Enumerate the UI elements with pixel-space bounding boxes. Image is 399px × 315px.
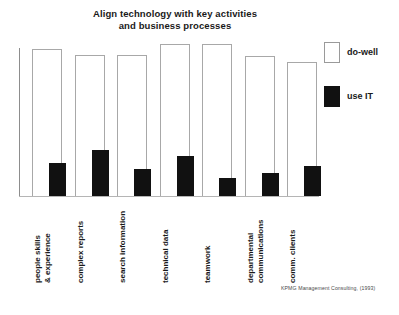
bar-use-it (219, 178, 236, 196)
category-label-line-1: people skills (33, 235, 42, 283)
category-label-line-1: comm. clients (288, 230, 297, 283)
bar-use-it (134, 169, 151, 196)
chart-title-line-2: and business processes (40, 20, 310, 32)
bar-use-it (177, 156, 194, 196)
category-label: people skills& experience (33, 199, 55, 283)
category-label: technical data (161, 199, 183, 283)
category-label: comm. clients (288, 199, 310, 283)
category-label-line-1: teamwork (203, 246, 212, 283)
legend-swatch-filled (324, 86, 340, 107)
category-label: complex reports (76, 199, 98, 283)
category-label-line-2: communications (255, 199, 265, 283)
category-label-line-1: technical data (161, 230, 170, 283)
category-axis-labels: people skills& experiencecomplex reports… (19, 199, 319, 283)
category-label-line-1: search information (118, 211, 127, 283)
category-label-line-1: complex reports (76, 221, 85, 283)
bar-use-it (262, 173, 279, 196)
y-axis-line (19, 48, 20, 197)
page-title: Align technology with key activities and… (40, 8, 310, 32)
bar-do-well (202, 44, 232, 196)
plot-area (19, 44, 319, 197)
chart-page: Align technology with key activities and… (0, 0, 399, 315)
x-axis-line (19, 196, 319, 197)
legend-swatch-open (324, 42, 340, 63)
category-label: departmentalcommunications (246, 199, 268, 283)
legend-item: do-well (324, 42, 396, 64)
chart-legend: do-welluse IT (324, 42, 396, 130)
category-label: teamwork (203, 199, 225, 283)
chart-title-line-1: Align technology with key activities (40, 8, 310, 20)
bar-use-it (49, 163, 66, 196)
legend-item: use IT (324, 86, 396, 108)
category-label: search information (118, 199, 140, 283)
category-label-line-2: & experience (43, 199, 53, 283)
legend-label: do-well (347, 47, 378, 57)
legend-label: use IT (347, 91, 373, 101)
bar-use-it (92, 150, 109, 196)
category-label-line-1: departmental (246, 233, 255, 283)
source-caption: KPMG Management Consulting, (1993) (281, 285, 375, 291)
bar-use-it (304, 166, 321, 196)
